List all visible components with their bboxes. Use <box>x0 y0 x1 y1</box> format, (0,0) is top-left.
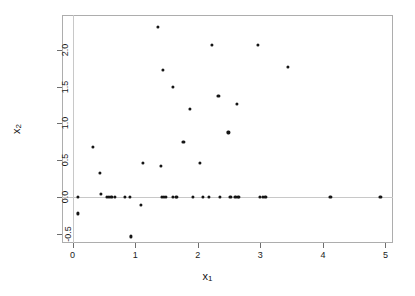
data-point <box>218 196 221 199</box>
plot-data-area <box>62 15 393 243</box>
data-point <box>124 196 127 199</box>
data-point <box>207 196 210 199</box>
y-axis-label-subscript: 2 <box>14 124 23 128</box>
y-axis-tick-label: 1.0 <box>60 123 70 136</box>
x-axis-tick-label: 0 <box>70 250 75 260</box>
data-point <box>139 203 142 206</box>
data-point <box>176 196 179 199</box>
x-axis-tick-label: 5 <box>383 250 388 260</box>
data-point <box>286 65 289 68</box>
data-point <box>113 196 116 199</box>
data-point <box>159 165 162 168</box>
data-point <box>210 44 213 47</box>
x-axis-tick-label: 3 <box>258 250 263 260</box>
x-axis-tick-label: 4 <box>320 250 325 260</box>
x-axis-tick <box>385 243 386 248</box>
data-point <box>76 212 79 215</box>
data-point <box>236 103 239 106</box>
data-point <box>91 145 94 148</box>
data-point <box>99 192 102 195</box>
x-axis-label-subscript: 1 <box>208 274 212 283</box>
x-axis-tick <box>73 243 74 248</box>
data-point <box>189 107 192 110</box>
data-point <box>161 68 164 71</box>
data-point <box>129 196 132 199</box>
y-axis-label-text: x <box>10 128 22 134</box>
data-point <box>237 196 240 199</box>
y-axis-tick <box>57 234 62 235</box>
data-point <box>201 196 204 199</box>
data-point <box>217 95 220 98</box>
data-point <box>156 25 159 28</box>
x-axis-tick-label: 2 <box>195 250 200 260</box>
data-point <box>191 196 194 199</box>
x-axis-tick <box>323 243 324 248</box>
scatter-plot-figure: 012345-0.50.00.51.01.52.0 x1 x2 <box>0 0 415 296</box>
y-axis-tick-label: -0.5 <box>63 234 73 250</box>
data-point <box>379 196 382 199</box>
x-axis-tick <box>198 243 199 248</box>
x-axis-tick-label: 1 <box>133 250 138 260</box>
y-axis-tick-label: 0.0 <box>60 197 70 210</box>
data-point <box>256 44 259 47</box>
data-point <box>129 235 132 238</box>
y-axis-tick-label: 0.5 <box>60 160 70 173</box>
y-axis-label: x2 <box>10 124 23 134</box>
data-point <box>141 161 144 164</box>
x-axis-tick <box>135 243 136 248</box>
data-point <box>264 196 267 199</box>
data-point <box>98 171 101 174</box>
x-axis-tick <box>260 243 261 248</box>
data-point <box>229 196 232 199</box>
data-point <box>329 196 332 199</box>
data-point <box>182 140 185 143</box>
data-point <box>199 162 202 165</box>
reference-line-vertical <box>73 15 74 243</box>
y-axis-tick-label: 2.0 <box>60 50 70 63</box>
x-axis-label: x1 <box>0 270 415 283</box>
data-point <box>77 196 80 199</box>
data-point <box>171 86 174 89</box>
y-axis-tick-label: 1.5 <box>60 87 70 100</box>
data-point <box>227 131 230 134</box>
